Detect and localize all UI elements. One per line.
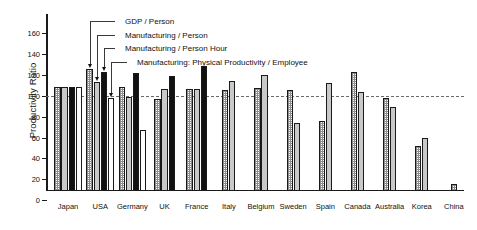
leader-line-horizontal [111, 62, 127, 63]
bar [61, 87, 67, 191]
legend-label: Manufacturing / Person [125, 31, 208, 40]
bar [126, 97, 132, 191]
y-tick-label: 120 [27, 71, 40, 80]
bar [415, 146, 421, 191]
legend-label: GDP / Person [125, 17, 174, 26]
y-tick-mark [42, 138, 47, 139]
y-tick-mark [42, 200, 47, 201]
bar [101, 72, 107, 191]
bar [161, 89, 167, 191]
x-category-label: Japan [58, 202, 78, 211]
x-category-label: Korea [412, 202, 432, 211]
x-category-label: Australia [375, 202, 404, 211]
y-tick-label: 80 [32, 113, 40, 122]
bar [169, 76, 175, 191]
y-tick-label: 60 [32, 134, 40, 143]
legend-label: Manufacturing: Physical Productivity / E… [137, 58, 308, 67]
y-tick-label: 100 [27, 92, 40, 101]
bar [451, 184, 457, 191]
legend-label: Manufacturing / Person Hour [125, 44, 227, 53]
y-tick-mark [42, 158, 47, 159]
bar [222, 90, 228, 191]
bar [261, 75, 267, 191]
leader-arrowhead-icon [88, 64, 92, 68]
y-tick-label: 0 [36, 196, 40, 205]
bar [140, 130, 146, 191]
leader-line-vertical [111, 62, 112, 94]
leader-line-vertical [97, 35, 98, 78]
leader-line-horizontal [97, 35, 115, 36]
bar [287, 90, 293, 191]
y-tick-mark [42, 33, 47, 34]
y-axis-line [46, 14, 48, 191]
bar [229, 81, 235, 191]
bar [383, 98, 389, 191]
x-category-label: China [444, 202, 464, 211]
bar [119, 87, 125, 191]
bar [254, 88, 260, 191]
leader-arrowhead-icon [109, 93, 113, 97]
y-tick-mark [42, 54, 47, 55]
x-category-label: Belgium [247, 202, 274, 211]
bar [76, 87, 82, 191]
plot-area: 020406080100120140160 [46, 14, 464, 200]
bar [133, 73, 139, 191]
bar [390, 107, 396, 191]
chart-root: Productivity Ratio 020406080100120140160… [0, 0, 477, 230]
x-category-label: Germany [117, 202, 148, 211]
bar [154, 99, 160, 191]
leader-line-vertical [90, 21, 91, 65]
bar [54, 87, 60, 191]
x-category-label: France [185, 202, 208, 211]
y-tick-mark [42, 75, 47, 76]
x-category-label: Spain [316, 202, 335, 211]
bar [194, 89, 200, 191]
y-tick-mark [42, 179, 47, 180]
bar [294, 123, 300, 191]
bar [186, 89, 192, 191]
leader-line-vertical [104, 48, 105, 68]
bar [86, 69, 92, 191]
bar [422, 138, 428, 191]
bar [69, 87, 75, 191]
y-tick-label: 160 [27, 29, 40, 38]
y-tick-label: 40 [32, 154, 40, 163]
leader-arrowhead-icon [102, 67, 106, 71]
bar [326, 83, 332, 191]
bar [94, 82, 100, 191]
y-tick-label: 140 [27, 50, 40, 59]
leader-line-horizontal [90, 21, 115, 22]
x-category-label: Canada [344, 202, 370, 211]
x-category-label: Sweden [280, 202, 307, 211]
bar [358, 92, 364, 191]
bar [319, 121, 325, 191]
leader-arrowhead-icon [95, 77, 99, 81]
bar [351, 72, 357, 191]
bar [108, 98, 114, 191]
y-tick-mark [42, 117, 47, 118]
x-category-label: UK [159, 202, 169, 211]
x-category-label: USA [93, 202, 108, 211]
x-category-label: Italy [222, 202, 236, 211]
leader-line-horizontal [104, 48, 115, 49]
bar [201, 66, 207, 191]
y-tick-label: 20 [32, 175, 40, 184]
